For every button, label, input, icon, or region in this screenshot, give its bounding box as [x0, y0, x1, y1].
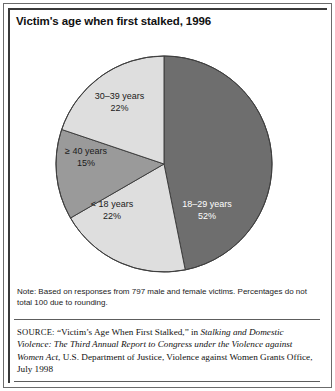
pie-label-18-29-value: 52%: [157, 210, 257, 222]
figure-panel: Victim's age when first stalked, 1996 18…: [0, 0, 335, 391]
source-in-word: in: [191, 327, 198, 337]
pie-label-18-29: 18–29 years 52%: [157, 198, 257, 222]
pie-chart: 18–29 years 52% < 18 years 22% ≥ 40 year…: [14, 48, 320, 280]
pie-label-under-18-text: < 18 years: [91, 199, 133, 209]
pie-label-40-plus-value: 15%: [41, 157, 131, 169]
pie-label-40-plus: ≥ 40 years 15%: [41, 145, 131, 169]
pie-slice-18-29[interactable]: [164, 56, 272, 270]
figure-source: SOURCE: “Victim’s Age When First Stalked…: [17, 326, 319, 376]
source-quoted-title: “Victim’s Age When First Stalked,”: [57, 327, 189, 337]
pie-label-30-39: 30–39 years 22%: [72, 90, 167, 114]
pie-label-18-29-text: 18–29 years: [182, 199, 232, 209]
figure-title: Victim's age when first stalked, 1996: [16, 15, 211, 27]
pie-label-under-18-value: 22%: [67, 210, 157, 222]
source-divider: [14, 319, 320, 320]
figure-note: Note: Based on responses from 797 male a…: [17, 287, 317, 308]
pie-label-under-18: < 18 years 22%: [67, 198, 157, 222]
source-tail: , U.S. Department of Justice, Violence a…: [17, 352, 312, 374]
figure-bottom-rule: [14, 381, 320, 382]
pie-label-30-39-value: 22%: [72, 102, 167, 114]
pie-label-30-39-text: 30–39 years: [95, 91, 145, 101]
source-prefix: SOURCE:: [17, 327, 55, 337]
pie-label-40-plus-text: ≥ 40 years: [65, 146, 107, 156]
